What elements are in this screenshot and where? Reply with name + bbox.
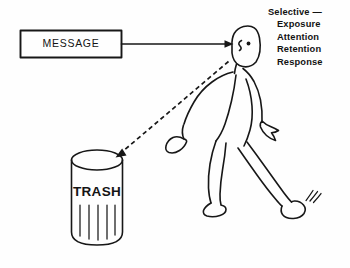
right-leg-front xyxy=(238,148,282,206)
selective-list-item-retention: Retention xyxy=(277,43,350,55)
left-shoulder-arm-upper xyxy=(184,72,233,124)
torso-front xyxy=(216,75,236,141)
left-foot xyxy=(203,203,226,217)
dashed-arrow-shaft xyxy=(122,62,229,153)
message-to-person-arrow xyxy=(122,40,234,48)
nose xyxy=(239,41,242,51)
torso-right xyxy=(244,79,252,146)
trash-can-label: TRASH xyxy=(73,184,121,199)
right-foot xyxy=(281,201,305,219)
motion-lines xyxy=(306,191,321,203)
left-hand xyxy=(166,137,187,153)
selective-list-item-response: Response xyxy=(277,56,350,68)
left-leg-back xyxy=(220,143,226,205)
head xyxy=(232,26,260,67)
right-hand xyxy=(260,121,278,141)
trash-can-rim xyxy=(72,150,123,170)
trash-can: TRASH xyxy=(72,150,123,245)
selective-list: Selective — Exposure Attention Retention… xyxy=(268,6,350,68)
right-leg-back xyxy=(247,142,292,202)
selective-list-item-attention: Attention xyxy=(277,31,350,43)
message-box-label: MESSAGE xyxy=(43,37,100,49)
left-leg-front xyxy=(208,141,216,203)
diagram-canvas: MESSAGE TRASH xyxy=(0,0,350,268)
selective-list-heading: Selective — xyxy=(268,6,350,18)
person-to-trash-arrow xyxy=(116,62,229,158)
eye xyxy=(247,42,251,46)
selective-list-item-exposure: Exposure xyxy=(277,18,350,30)
message-box: MESSAGE xyxy=(21,31,122,58)
neck xyxy=(235,64,237,74)
left-arm-lower xyxy=(182,125,184,139)
